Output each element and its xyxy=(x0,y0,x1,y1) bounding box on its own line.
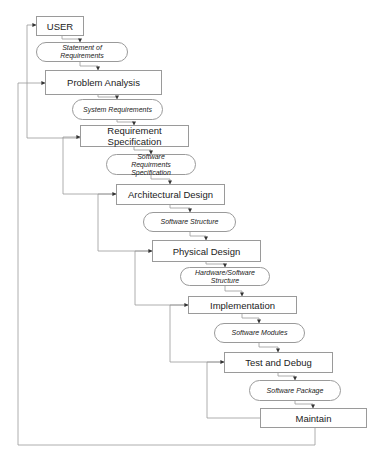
artifact-label: Hardware/Software Structure xyxy=(185,269,265,285)
artifact-label: System Requirements xyxy=(83,106,152,114)
artifact-label: Software Modules xyxy=(231,329,287,337)
stage-label: Maintain xyxy=(296,413,332,424)
artifact-system-requirements: System Requirements xyxy=(72,99,163,120)
stage-label: Physical Design xyxy=(173,246,241,257)
stage-problem-analysis: Problem Analysis xyxy=(45,70,162,95)
stage-test-and-debug: Test and Debug xyxy=(224,352,333,373)
artifact-software-requirements-specification: Software Requirments Specification xyxy=(106,154,196,175)
stage-user: USER xyxy=(36,16,84,36)
stage-label: Test and Debug xyxy=(245,357,312,368)
stage-architectural-design: Architectural Design xyxy=(116,184,225,205)
stage-label: Implementation xyxy=(210,300,275,311)
artifact-software-modules: Software Modules xyxy=(214,323,305,343)
stage-label: Requirement Specification xyxy=(81,125,188,147)
artifact-label: Software Requirments Specification xyxy=(121,153,181,177)
stage-implementation: Implementation xyxy=(188,296,297,314)
stage-physical-design: Physical Design xyxy=(152,240,261,262)
stage-label: Problem Analysis xyxy=(67,77,140,88)
artifact-label: Software Package xyxy=(267,387,324,395)
artifact-label: Software Structure xyxy=(161,218,219,226)
artifact-statement-of-requirements: Statement of Requirements xyxy=(36,42,128,62)
artifact-label: Statement of Requirements xyxy=(41,44,123,60)
stage-label: Architectural Design xyxy=(128,189,213,200)
artifact-hardware-software-structure: Hardware/Software Structure xyxy=(180,267,270,286)
artifact-software-package: Software Package xyxy=(249,380,341,401)
artifact-software-structure: Software Structure xyxy=(143,212,236,232)
stage-label: USER xyxy=(47,21,73,32)
stage-maintain: Maintain xyxy=(260,408,367,428)
stage-requirement-specification: Requirement Specification xyxy=(80,125,189,147)
